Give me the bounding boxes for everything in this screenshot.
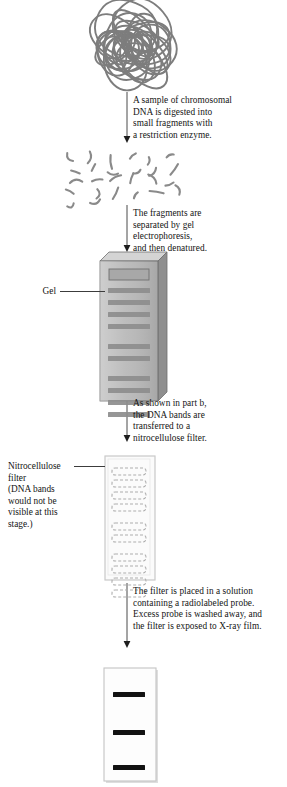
step-text-2: The fragments are separated by gel elect… [133, 208, 285, 254]
step-text-1: A sample of chromosomal DNA is digested … [133, 95, 285, 141]
step-text-4: The filter is placed in a solution conta… [133, 586, 287, 632]
gel-label-leader [60, 291, 105, 292]
step-text-3: As shown in part b, the DNA bands are tr… [133, 398, 285, 444]
gel-slab [100, 252, 169, 403]
xray-film [103, 667, 160, 785]
gel-label: Gel [8, 286, 56, 298]
filter-label-leader [74, 466, 105, 467]
nitrocellulose-filter-label: Nitrocellulose filter (DNA bands would n… [8, 461, 80, 531]
nitrocellulose-filter [104, 455, 158, 583]
southern-blot-figure: A sample of chromosomal DNA is digested … [0, 0, 287, 787]
